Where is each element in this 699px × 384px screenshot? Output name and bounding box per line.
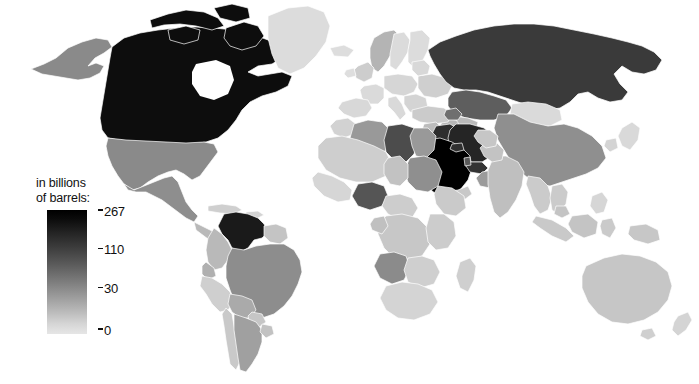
country-united-states-alaska: [31, 38, 112, 80]
legend: in billions of barrels: 267 110 30 0: [36, 176, 186, 344]
country-indonesia-sulawesi: [600, 218, 616, 238]
country-korea: [604, 138, 618, 152]
country-greenland: [268, 6, 330, 74]
country-new-zealand: [672, 312, 692, 336]
country-malaysia: [554, 206, 570, 218]
colorbar-gradient: [47, 210, 87, 334]
country-philippines: [590, 192, 608, 214]
country-iceland: [330, 45, 354, 57]
tick-dash-icon: [98, 328, 103, 330]
country-sweden: [390, 32, 410, 70]
legend-title: in billions of barrels:: [36, 176, 166, 205]
country-kenya-tanzania: [426, 214, 456, 250]
country-papua-new-guinea: [628, 224, 660, 244]
country-madagascar: [456, 258, 476, 292]
country-chad: [384, 156, 408, 186]
tick-dash-icon: [98, 209, 103, 211]
country-italy: [388, 96, 406, 120]
country-qatar: [464, 157, 471, 166]
country-ireland: [344, 68, 356, 78]
country-australia: [582, 254, 672, 324]
country-japan: [618, 122, 640, 150]
country-india: [488, 156, 524, 218]
country-spain-portugal: [338, 98, 372, 118]
country-baltics: [412, 60, 430, 76]
choropleth-figure: in billions of barrels: 267 110 30 0: [0, 0, 699, 384]
country-indonesia-sumatra: [532, 216, 574, 242]
tick-label-30: 30: [104, 282, 118, 295]
country-sudan: [404, 156, 442, 192]
colorbar: 267 110 30 0: [47, 210, 87, 334]
country-south-africa: [380, 282, 438, 320]
country-germany-poland: [384, 74, 418, 96]
country-united-kingdom: [354, 62, 374, 82]
country-guyanas: [264, 224, 288, 244]
tick-label-max: 267: [104, 204, 125, 217]
tick-label-110: 110: [104, 243, 124, 256]
tick-dash-icon: [98, 248, 103, 250]
tick-dash-icon: [98, 287, 103, 289]
tick-label-min: 0: [104, 323, 111, 336]
country-tasmania: [640, 328, 656, 340]
